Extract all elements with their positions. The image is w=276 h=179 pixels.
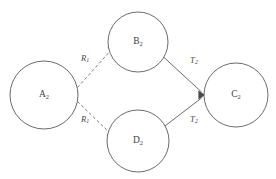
edge-label-a2-to-d2: R1 <box>80 114 89 124</box>
node-a2[interactable]: A2 <box>10 61 78 129</box>
node-b2[interactable]: B2 <box>108 12 168 72</box>
diagram-canvas: A2 B2 D2 C2 R1 R1 <box>0 0 276 179</box>
edge-label-a2-to-b2: R1 <box>80 53 89 63</box>
node-c2[interactable]: C2 <box>204 63 268 127</box>
edge-label-d2-to-c2: T2 <box>190 114 198 124</box>
node-d2[interactable]: D2 <box>107 110 169 172</box>
edge-label-b2-to-c2: T2 <box>190 55 198 65</box>
network-diagram: A2 B2 D2 C2 R1 R1 <box>0 0 276 179</box>
